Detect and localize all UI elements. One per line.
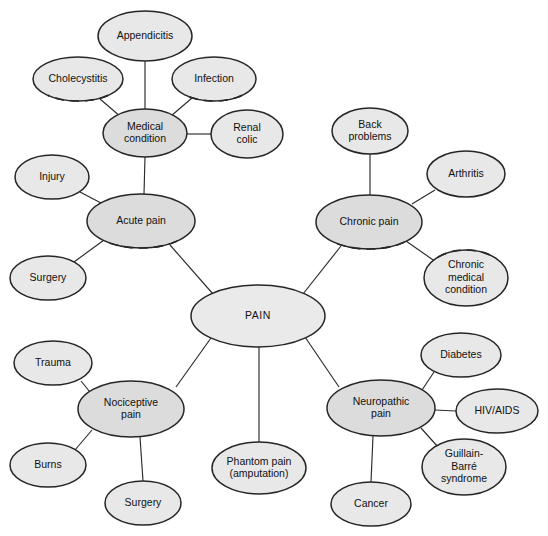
node-injury[interactable]: Injury <box>15 155 89 199</box>
node-shape-neuropathic-pain <box>327 380 435 436</box>
node-shape-hiv-aids <box>456 389 538 433</box>
node-back-problems[interactable]: Backproblems <box>332 108 408 154</box>
edge-nociceptive-pain-to-surgery-nociceptive <box>140 437 143 481</box>
node-shape-acute-pain <box>87 194 195 248</box>
node-shape-guillain-barre-syndrome <box>422 439 506 495</box>
node-shape-surgery-nociceptive <box>105 481 181 525</box>
node-chronic-pain[interactable]: Chronic pain <box>316 195 422 249</box>
edge-chronic-pain-to-arthritis <box>412 190 435 204</box>
node-medical-condition[interactable]: Medicalcondition <box>103 109 187 157</box>
node-shape-medical-condition <box>103 109 187 157</box>
node-shape-chronic-pain <box>316 195 422 249</box>
node-shape-chronic-medical-condition <box>424 250 508 306</box>
node-chronic-medical-condition[interactable]: Chronicmedicalcondition <box>424 250 508 306</box>
node-shape-nociceptive-pain <box>78 381 184 437</box>
node-shape-renal-colic <box>211 110 283 158</box>
edge-acute-pain-to-surgery-acute <box>74 240 104 262</box>
node-shape-infection <box>172 57 256 101</box>
edge-medical-condition-to-infection <box>171 98 192 116</box>
edge-neuropathic-pain-to-guillain-barre-syndrome <box>421 428 438 447</box>
node-diabetes[interactable]: Diabetes <box>421 333 501 377</box>
node-shape-back-problems <box>332 108 408 154</box>
node-shape-burns <box>10 443 86 487</box>
edge-neuropathic-pain-to-diabetes <box>422 372 434 390</box>
node-acute-pain[interactable]: Acute pain <box>87 194 195 248</box>
node-shape-injury <box>15 155 89 199</box>
edge-acute-pain-to-medical-condition <box>144 157 145 194</box>
edge-neuropathic-pain-to-hiv-aids <box>435 410 456 411</box>
node-pain[interactable]: PAIN <box>191 285 325 347</box>
edge-pain-to-acute-pain <box>170 245 213 294</box>
edge-pain-to-nociceptive-pain <box>176 338 211 387</box>
node-burns[interactable]: Burns <box>10 443 86 487</box>
edge-pain-to-chronic-pain <box>303 246 341 294</box>
node-shape-arthritis <box>427 151 505 197</box>
node-arthritis[interactable]: Arthritis <box>427 151 505 197</box>
node-surgery-acute[interactable]: Surgery <box>10 256 86 300</box>
node-shape-cancer <box>331 482 411 526</box>
node-cancer[interactable]: Cancer <box>331 482 411 526</box>
node-shape-phantom-pain <box>212 442 306 494</box>
node-trauma[interactable]: Trauma <box>14 341 92 385</box>
node-shape-trauma <box>14 341 92 385</box>
node-cholecystitis[interactable]: Cholecystitis <box>33 57 123 101</box>
edge-pain-to-neuropathic-pain <box>305 337 339 387</box>
node-phantom-pain[interactable]: Phantom pain(amputation) <box>212 442 306 494</box>
node-nociceptive-pain[interactable]: Nociceptivepain <box>78 381 184 437</box>
node-layer: PAINAcute painChronic painNociceptivepai… <box>10 11 538 526</box>
node-infection[interactable]: Infection <box>172 57 256 101</box>
node-guillain-barre-syndrome[interactable]: Guillain-Barrésyndrome <box>422 439 506 495</box>
node-surgery-nociceptive[interactable]: Surgery <box>105 481 181 525</box>
node-shape-pain <box>191 285 325 347</box>
node-neuropathic-pain[interactable]: Neuropathicpain <box>327 380 435 436</box>
node-shape-appendicitis <box>98 11 192 61</box>
node-shape-surgery-acute <box>10 256 86 300</box>
edge-nociceptive-pain-to-burns <box>75 430 92 450</box>
node-renal-colic[interactable]: Renalcolic <box>211 110 283 158</box>
pain-concept-map: PAINAcute painChronic painNociceptivepai… <box>0 0 548 536</box>
edge-chronic-pain-to-chronic-medical-condition <box>406 241 436 262</box>
concept-map-canvas: PAINAcute painChronic painNociceptivepai… <box>0 0 548 536</box>
edge-neuropathic-pain-to-cancer <box>371 436 373 482</box>
node-hiv-aids[interactable]: HIV/AIDS <box>456 389 538 433</box>
node-appendicitis[interactable]: Appendicitis <box>98 11 192 61</box>
node-shape-diabetes <box>421 333 501 377</box>
node-shape-cholecystitis <box>33 57 123 101</box>
edge-acute-pain-to-injury <box>80 192 101 203</box>
edge-nociceptive-pain-to-trauma <box>81 381 90 392</box>
